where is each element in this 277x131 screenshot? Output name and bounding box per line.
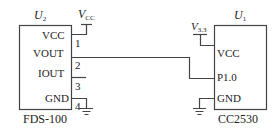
u2-pin3-number: 3 [75,81,81,92]
u2-pin1-number: 1 [75,38,81,49]
ground-icon-left [80,109,93,115]
v33-supply-label: V3.3 [191,21,206,36]
u1-gnd-wire [200,99,215,109]
vout-to-p10-wire [72,58,215,79]
u2-ref-label: U2 [34,10,46,25]
circuit-diagram: U2 VCC VCC VOUT IOUT GND 1 2 3 4 FDS-100… [0,0,277,131]
u2-pin4-number: 4 [75,101,81,112]
u1-pin-vcc: VCC [217,48,240,59]
u2-pin-iout: IOUT [38,68,64,79]
u1-ref-label: U1 [234,10,246,25]
u1-part-name: CC2530 [218,114,258,125]
u1-pin-p10: P1.0 [217,72,237,83]
ground-icon-right [193,109,206,115]
u2-pin2-number: 2 [75,60,81,71]
u1-vcc-wire [201,35,215,46]
u2-vcc-wire [72,25,87,35]
u2-pin-vout: VOUT [33,48,64,59]
u1-pin-gnd: GND [217,93,241,104]
u2-pin-vcc: VCC [42,30,65,41]
u2-part-name: FDS-100 [23,114,67,125]
u2-pin-gnd: GND [45,93,69,104]
vcc-supply-label: VCC [78,9,95,24]
